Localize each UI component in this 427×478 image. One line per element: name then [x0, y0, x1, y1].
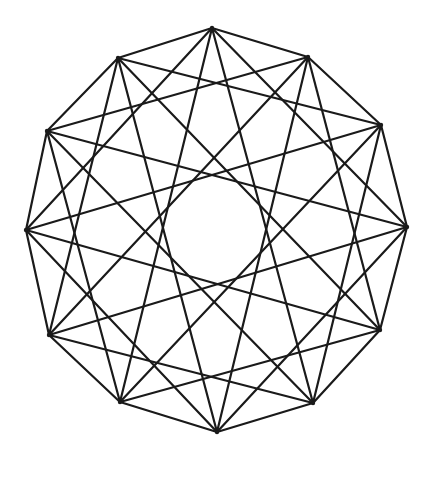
vertex-point: [210, 26, 214, 30]
star-diagonal: [49, 57, 308, 335]
vertex-point: [215, 430, 219, 434]
star-diagonal: [47, 131, 120, 402]
star-diagonal: [217, 57, 308, 432]
dodecagram-figure: [0, 0, 427, 478]
vertex-point: [118, 400, 122, 404]
vertex-point: [379, 123, 383, 127]
star-diagonal: [120, 330, 380, 402]
star-diagonal: [212, 28, 313, 403]
vertices: [24, 26, 409, 434]
vertex-point: [378, 328, 382, 332]
vertex-point: [405, 225, 409, 229]
polygon-side: [26, 131, 47, 230]
star-diagonal: [49, 58, 118, 335]
vertex-point: [311, 401, 315, 405]
star-diagonal: [308, 57, 380, 330]
polygon-side: [381, 125, 407, 227]
star-diagonal: [118, 58, 381, 125]
star-polygon-diagram: [0, 0, 427, 478]
vertex-point: [24, 228, 28, 232]
star-diagonal: [26, 125, 381, 230]
vertex-point: [47, 333, 51, 337]
edges: [26, 28, 407, 432]
star-diagonal: [120, 28, 212, 402]
vertex-point: [306, 55, 310, 59]
star-diagonal: [118, 58, 380, 330]
vertex-point: [45, 129, 49, 133]
star-diagonal: [49, 227, 407, 335]
polygon-side: [26, 230, 49, 335]
star-diagonal: [120, 125, 381, 402]
vertex-point: [116, 56, 120, 60]
